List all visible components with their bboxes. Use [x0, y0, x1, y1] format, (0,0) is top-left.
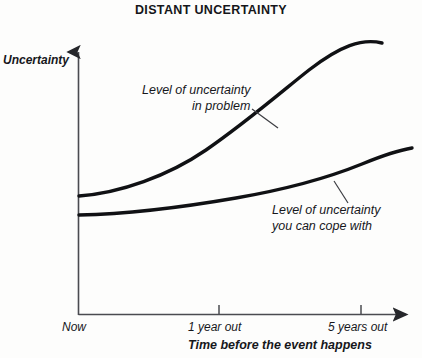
- leader-line-upper-annotation: [252, 109, 278, 128]
- annotation-upper-line-2: in problem: [142, 99, 250, 115]
- x-tick-label-1-year: 1 year out: [188, 320, 241, 334]
- annotation-uncertainty-in-problem: Level of uncertainty in problem: [142, 83, 250, 114]
- x-axis-label: Time before the event happens: [188, 338, 372, 352]
- x-tick-label-now: Now: [62, 320, 86, 334]
- annotation-upper-line-1: Level of uncertainty: [142, 83, 250, 97]
- leader-line-lower-annotation: [334, 181, 348, 203]
- annotation-lower-line-1: Level of uncertainty: [272, 203, 380, 217]
- y-axis-label: Uncertainty: [3, 53, 69, 67]
- annotation-uncertainty-you-can-cope-with: Level of uncertainty you can cope with: [272, 203, 380, 234]
- x-tick-label-5-years: 5 years out: [328, 320, 387, 334]
- annotation-lower-line-2: you can cope with: [272, 219, 380, 235]
